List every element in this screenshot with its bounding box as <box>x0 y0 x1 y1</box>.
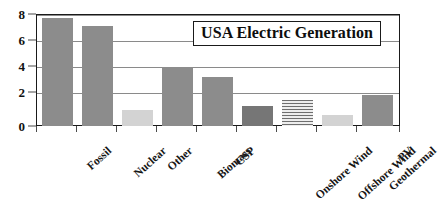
bar-offshore-wind[interactable] <box>282 100 313 126</box>
y-tick-mark-6 <box>28 40 36 41</box>
y-tick-label-4: 4 <box>19 60 26 73</box>
x-label-fossil: Fossil <box>85 145 114 172</box>
bar-csp[interactable] <box>202 77 233 126</box>
x-axis <box>36 126 400 136</box>
bar-geothermal[interactable] <box>322 115 353 126</box>
bar-nuclear[interactable] <box>82 26 113 126</box>
y-tick-mark-0 <box>28 126 36 127</box>
chart-title: USA Electric Generation <box>193 21 381 46</box>
x-tick-mark-4 <box>196 126 197 132</box>
y-tick-mark-2 <box>28 92 36 93</box>
y-axis: 8 6 4 2 0 <box>0 0 36 140</box>
x-label-nuclear: Nuclear <box>132 145 169 180</box>
y-tick-label-8: 8 <box>19 8 26 21</box>
bar-fossil[interactable] <box>42 18 73 126</box>
x-tick-mark-1 <box>76 126 77 132</box>
y-tick-mark-4 <box>28 66 36 67</box>
x-tick-mark-0 <box>36 126 37 132</box>
bar-onshore-wind[interactable] <box>242 106 273 126</box>
y-tick-label-0: 0 <box>19 120 26 133</box>
x-tick-mark-3 <box>156 126 157 132</box>
x-tick-mark-6 <box>276 126 277 132</box>
y-tick-mark-8 <box>28 14 36 15</box>
y-tick-label-6: 6 <box>19 34 26 47</box>
y-tick-label-2: 2 <box>19 86 26 99</box>
bar-pv[interactable] <box>362 95 393 126</box>
x-label-other: Other <box>166 145 196 173</box>
x-tick-mark-5 <box>236 126 237 132</box>
x-tick-mark-2 <box>116 126 117 132</box>
x-tick-mark-7 <box>316 126 317 132</box>
x-tick-mark-9 <box>399 126 400 132</box>
bar-other[interactable] <box>122 110 153 126</box>
bar-biomass[interactable] <box>162 67 193 126</box>
x-tick-mark-8 <box>356 126 357 132</box>
